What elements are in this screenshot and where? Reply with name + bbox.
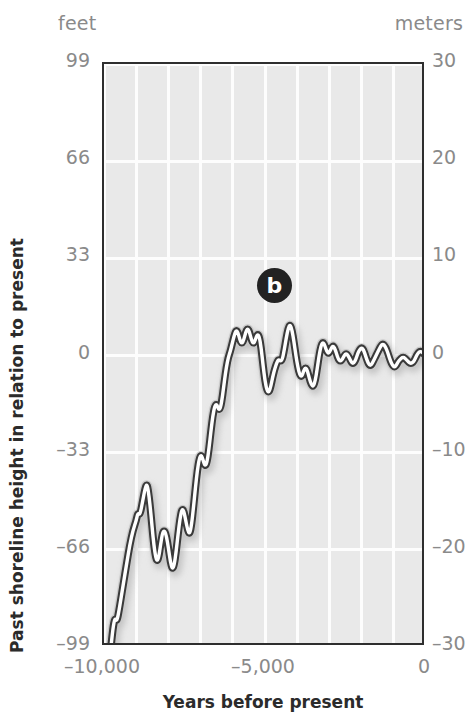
x-tick-label: 0	[344, 655, 473, 677]
shoreline-curve	[104, 64, 422, 643]
left-axis-unit-label: feet	[58, 12, 96, 34]
y-tick-label-meters: 30	[432, 49, 456, 71]
y-tick-label-feet: 66	[10, 146, 90, 168]
y-tick-label-feet: –66	[10, 535, 90, 557]
y-tick-label-meters: –10	[432, 438, 466, 460]
y-tick-label-feet: 99	[10, 49, 90, 71]
y-tick-label-feet: –99	[10, 632, 90, 654]
y-tick-label-meters: 20	[432, 146, 456, 168]
x-tick-label: –10,000	[22, 655, 182, 677]
y-tick-label-meters: 10	[432, 243, 456, 265]
y-tick-label-meters: 0	[432, 341, 444, 363]
x-tick-label: –5,000	[183, 655, 343, 677]
y-tick-label-feet: –33	[10, 438, 90, 460]
y-tick-label-meters: –20	[432, 535, 466, 557]
y-tick-label-meters: –30	[432, 632, 466, 654]
shoreline-height-chart: feet meters Past shoreline height in rel…	[0, 0, 473, 724]
y-tick-label-feet: 0	[10, 341, 90, 363]
plot-inner	[104, 64, 422, 643]
x-axis-title: Years before present	[102, 692, 424, 712]
panel-label-b-badge: b	[257, 268, 292, 303]
plot-area	[102, 62, 424, 645]
right-axis-unit-label: meters	[395, 12, 463, 34]
y-tick-label-feet: 33	[10, 243, 90, 265]
